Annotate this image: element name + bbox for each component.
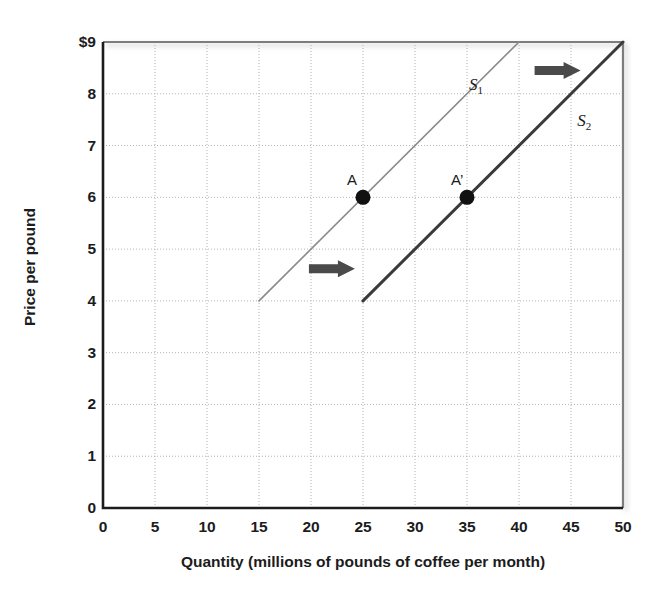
curve-label-S2: S2 bbox=[577, 111, 591, 132]
point-label-A: A bbox=[347, 171, 357, 188]
curve-label-S1: S1 bbox=[469, 75, 483, 96]
chart-labels: S1S2AA’ bbox=[0, 0, 665, 589]
point-label-A-prime: A’ bbox=[451, 171, 463, 188]
supply-shift-chart: Price per pound Quantity (millions of po… bbox=[0, 0, 665, 589]
